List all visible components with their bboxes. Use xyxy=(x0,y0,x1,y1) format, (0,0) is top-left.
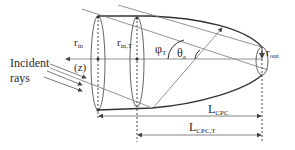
r-in-t-label: rin,T xyxy=(117,37,132,50)
theta-a-label: θa xyxy=(177,47,186,61)
cpc-diagram xyxy=(0,0,295,150)
acceptance-ray-lower xyxy=(118,5,262,47)
z-axis-label: (z) xyxy=(74,62,86,73)
entrance-aperture-ellipse xyxy=(91,16,105,110)
l-cpc-label: LCPC xyxy=(208,103,229,117)
incident-ray-3 xyxy=(44,77,82,91)
reflected-ray xyxy=(153,28,222,108)
r-out-label: rout xyxy=(266,47,279,60)
r-in-label: rin xyxy=(74,37,83,50)
cpc-lower-profile xyxy=(98,75,262,110)
l-cpc-t-label: LCPC,T xyxy=(189,121,216,135)
incident-ray-through xyxy=(50,68,150,107)
incident-rays-label-line2: rays xyxy=(10,72,30,84)
incident-rays-label-line1: Incident xyxy=(10,57,49,69)
phi-t-label: φT xyxy=(155,43,166,57)
incident-ray-2 xyxy=(47,71,82,85)
